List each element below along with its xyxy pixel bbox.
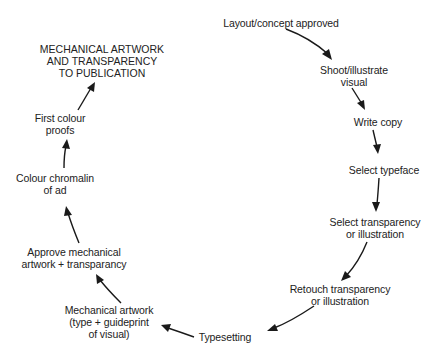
step-label: proofs [35, 124, 86, 136]
arrow-copy-to-typeface [373, 130, 381, 154]
step-colour-chromalin: Colour chromalin of ad [16, 172, 94, 196]
step-select-typeface: Select typeface [349, 164, 419, 176]
step-mechanical-artwork: Mechanical artwork (type + guideprint of… [65, 304, 154, 340]
title-line: AND TRANSPARENCY [40, 55, 164, 67]
step-write-copy: Write copy [354, 116, 402, 128]
arrow-chromalin-to-proofs [62, 139, 70, 168]
step-label: First colour [35, 112, 86, 124]
step-typesetting: Typesetting [199, 331, 252, 343]
arrow-typesetting-to-mechanical [161, 324, 194, 337]
step-label: Layout/concept approved [223, 17, 339, 29]
step-shoot-illustrate: Shoot/illustrate visual [320, 64, 388, 88]
arrow-approve-to-chromalin [64, 206, 79, 243]
arrow-select-to-retouch [341, 242, 367, 281]
arrow-layout-to-shoot [286, 29, 332, 60]
step-first-colour-proofs: First colour proofs [35, 112, 86, 136]
step-label: of visual) [65, 328, 154, 340]
step-label: Mechanical artwork [65, 304, 154, 316]
step-label: Colour chromalin [16, 172, 94, 184]
step-select-transparency: Select transparency or illustration [330, 216, 421, 240]
step-label: Select transparency [330, 216, 421, 228]
step-label: Write copy [354, 116, 402, 128]
step-retouch-transparency: Retouch transparency or illustration [290, 283, 391, 307]
outcome-title: MECHANICAL ARTWORK AND TRANSPARENCY TO P… [40, 43, 164, 79]
step-label: Select typeface [349, 164, 419, 176]
arrow-proofs-to-title [78, 82, 95, 110]
step-label: (type + guideprint [65, 316, 154, 328]
step-label: Typesetting [199, 331, 252, 343]
step-approve-mechanical: Approve mechanical artwork + transparanc… [22, 246, 127, 270]
step-label: of ad [16, 184, 94, 196]
step-layout-approved: Layout/concept approved [223, 17, 339, 29]
title-line: MECHANICAL ARTWORK [40, 43, 164, 55]
arrow-mechanical-to-approve [96, 274, 121, 303]
arrow-retouch-to-typesetting [267, 306, 314, 331]
title-line: TO PUBLICATION [40, 67, 164, 79]
step-label: artwork + transparancy [22, 258, 127, 270]
workflow-diagram: MECHANICAL ARTWORK AND TRANSPARENCY TO P… [0, 0, 432, 360]
arrow-shoot-to-copy [352, 88, 365, 110]
step-label: Approve mechanical [22, 246, 127, 258]
step-label: Retouch transparency [290, 283, 391, 295]
step-label: Shoot/illustrate [320, 64, 388, 76]
step-label: or illustration [290, 295, 391, 307]
arrow-typeface-to-select-transparency [372, 178, 380, 212]
step-label: or illustration [330, 228, 421, 240]
step-label: visual [320, 76, 388, 88]
